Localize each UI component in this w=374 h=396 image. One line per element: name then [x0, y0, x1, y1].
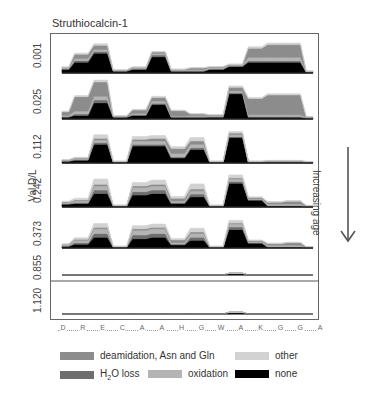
legend-item-deamidation: deamidation, Asn and Gln — [60, 350, 215, 361]
x-axis: DRECAAHGWAKGGA — [55, 324, 320, 336]
legend-item-h2o-loss: H2O loss — [60, 368, 139, 381]
legend-item-none: none — [235, 368, 297, 379]
legend-swatch-deamidation — [60, 352, 94, 360]
panel-label-0.112: 0.112 — [32, 127, 43, 167]
x-tick-10: K — [257, 324, 264, 331]
x-tick-12: G — [296, 324, 303, 331]
panel-label-1.120: 1.120 — [32, 280, 43, 320]
legend-item-other: other — [235, 350, 298, 361]
x-tick-11: G — [277, 324, 284, 331]
legend-swatch-none — [235, 370, 269, 378]
legend-label-none: none — [275, 368, 297, 379]
x-tick-6: H — [178, 324, 185, 331]
legend-swatch-h2o-loss — [60, 371, 94, 379]
x-tick-4: A — [139, 324, 146, 331]
panel-label-0.025: 0.025 — [32, 82, 43, 122]
x-tick-5: A — [159, 324, 166, 331]
x-tick-1: R — [79, 324, 86, 331]
legend-label-deamidation: deamidation, Asn and Gln — [100, 350, 215, 361]
increasing-age-label: Increasing age — [311, 170, 322, 236]
chart-title: Struthiocalcin-1 — [52, 17, 128, 29]
x-tick-8: W — [217, 324, 226, 331]
legend-label-other: other — [275, 350, 298, 361]
x-tick-7: G — [198, 324, 205, 331]
x-tick-3: C — [119, 324, 126, 331]
panel-label-0.242: 0.242 — [32, 171, 43, 211]
legend-swatch-other — [235, 352, 269, 360]
legend-swatch-oxidation — [148, 370, 182, 378]
legend-item-oxidation: oxidation — [148, 368, 228, 379]
panel-label-0.001: 0.001 — [32, 36, 43, 76]
x-tick-2: E — [99, 324, 106, 331]
down-arrow-icon — [340, 145, 356, 245]
legend-label-h2o-loss: H2O loss — [100, 368, 139, 381]
legend: deamidation, Asn and Gln other H2O loss … — [60, 350, 340, 390]
stacked-area-plot — [50, 33, 319, 320]
legend-label-oxidation: oxidation — [188, 368, 228, 379]
x-tick-13: A — [317, 324, 324, 331]
x-tick-9: A — [238, 324, 245, 331]
x-tick-0: D — [59, 324, 66, 331]
